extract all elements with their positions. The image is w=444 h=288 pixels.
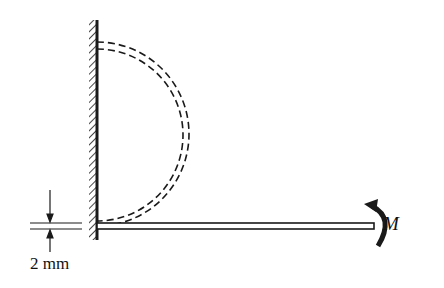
diagram-canvas: M 2 mm	[0, 0, 444, 288]
wall	[89, 20, 97, 240]
deformed-beam	[97, 42, 189, 226]
moment-label: M	[383, 213, 399, 235]
thickness-dimension	[30, 190, 82, 252]
diagram-svg	[0, 0, 444, 288]
beam	[97, 223, 374, 229]
thickness-label: 2 mm	[30, 254, 69, 274]
